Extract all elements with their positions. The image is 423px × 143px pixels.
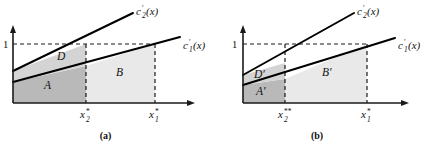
svg-text:c: c bbox=[357, 5, 362, 17]
svg-text:c: c bbox=[398, 39, 403, 51]
svg-text:2: 2 bbox=[86, 115, 90, 124]
panel-b-caption: (b) bbox=[211, 130, 423, 141]
y-tick-label-1: 1 bbox=[232, 39, 237, 50]
panel-a: 1 c ′ 2 (x) c ′ 1 (x) A D B x * bbox=[0, 0, 211, 143]
svg-text:c: c bbox=[183, 39, 188, 51]
svg-text:1: 1 bbox=[155, 115, 159, 124]
svg-text:(x): (x) bbox=[408, 39, 421, 52]
y-axis-arrowhead bbox=[10, 25, 16, 33]
svg-text:x: x bbox=[277, 108, 283, 120]
label-c2-prime: c ′ 2 (x) bbox=[136, 4, 159, 20]
label-c2-prime: c ′ 2 (x) bbox=[357, 4, 380, 20]
svg-text:x: x bbox=[148, 108, 154, 120]
region-label-B: B bbox=[116, 66, 123, 78]
region-label-Bprime: B′ bbox=[322, 66, 332, 78]
x-tick-x2-doublestar: x ** 2 bbox=[277, 107, 292, 124]
svg-text:x: x bbox=[79, 108, 85, 120]
figure-root: 1 c ′ 2 (x) c ′ 1 (x) A D B x * bbox=[0, 0, 423, 143]
svg-text:(x): (x) bbox=[367, 5, 380, 18]
region-label-Aprime: A′ bbox=[255, 85, 266, 97]
y-axis-arrowhead bbox=[240, 25, 246, 33]
svg-text:2: 2 bbox=[284, 115, 288, 124]
x-tick-x2-star: x * 2 bbox=[79, 107, 90, 124]
svg-text:c: c bbox=[136, 5, 141, 17]
panel-a-plot: 1 c ′ 2 (x) c ′ 1 (x) A D B x * bbox=[0, 0, 211, 128]
x-axis-arrowhead bbox=[401, 100, 409, 106]
x-tick-x1-star: x * 1 bbox=[148, 107, 159, 124]
region-label-Dprime: D′ bbox=[253, 68, 265, 80]
svg-text:(x): (x) bbox=[193, 39, 206, 52]
x-axis-arrowhead bbox=[187, 100, 195, 106]
label-c1-prime: c ′ 1 (x) bbox=[398, 38, 421, 54]
panel-a-caption: (a) bbox=[0, 130, 211, 141]
label-c1-prime: c ′ 1 (x) bbox=[183, 38, 206, 54]
x-tick-x1-star: x * 1 bbox=[360, 107, 371, 124]
region-label-D: D bbox=[56, 50, 66, 62]
region-label-A: A bbox=[43, 79, 52, 91]
svg-text:x: x bbox=[360, 108, 366, 120]
svg-text:1: 1 bbox=[367, 115, 371, 124]
svg-text:(x): (x) bbox=[146, 5, 159, 18]
panel-b-plot: 1 c ′ 2 (x) c ′ 1 (x) A′ D′ B′ x ** bbox=[211, 0, 423, 128]
y-tick-label-1: 1 bbox=[3, 39, 8, 50]
panel-b: 1 c ′ 2 (x) c ′ 1 (x) A′ D′ B′ x ** bbox=[211, 0, 423, 143]
